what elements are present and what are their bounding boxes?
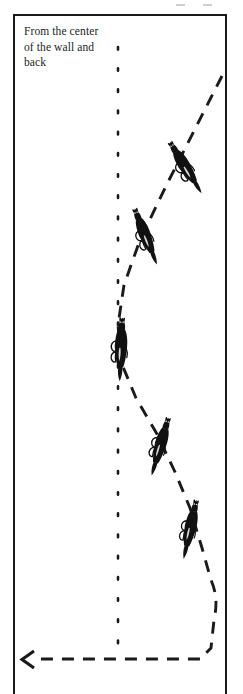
track-direction-arrowhead	[22, 651, 34, 668]
ridden-track-path	[36, 76, 222, 659]
scan-artifact	[176, 4, 185, 6]
horse-and-rider-1	[162, 139, 207, 198]
horse-and-rider-2	[126, 206, 163, 268]
scan-artifact	[203, 4, 212, 6]
horse-and-rider-4	[143, 415, 174, 477]
